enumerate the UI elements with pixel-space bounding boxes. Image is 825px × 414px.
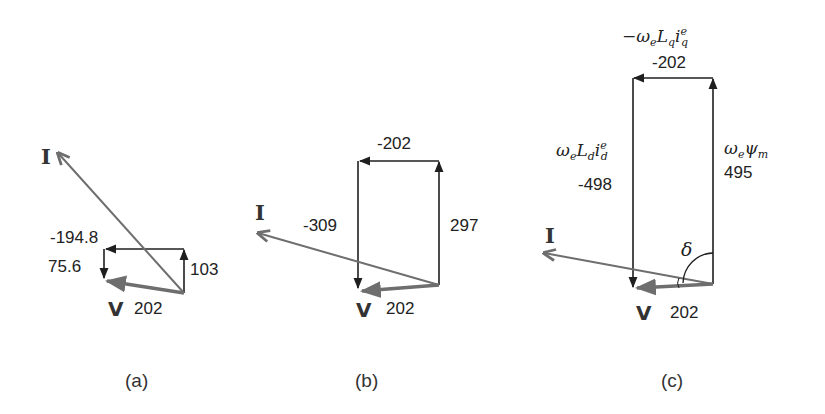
panel-c-vertical-up-value: 495 xyxy=(724,164,752,181)
panel-b-vertical-down-value: -309 xyxy=(303,217,337,234)
panel-c-delta-label: δ xyxy=(681,240,692,259)
panel-c-voltage-vector xyxy=(637,284,713,288)
panel-b-voltage-label: V xyxy=(356,300,371,320)
panel-c-vertical-down-value: -498 xyxy=(578,176,612,193)
panel-a-voltage-label: V xyxy=(108,299,123,319)
panel-c-caption: (c) xyxy=(661,371,683,390)
panel-b-voltage-value: 202 xyxy=(386,300,414,317)
panel-c-small-angle-arc xyxy=(678,278,679,288)
panel-b-voltage-vector xyxy=(362,285,439,291)
panel-c-vertical-down-symbol: ωeLdied xyxy=(556,140,608,162)
panel-b-current-vector xyxy=(258,233,439,285)
panel-b-current-label: I xyxy=(255,202,265,223)
panel-a-vertical-down-value: 75.6 xyxy=(48,258,81,275)
panel-c-horizontal-symbol: −ωeLqieq xyxy=(622,26,688,48)
panel-c-horizontal-value: -202 xyxy=(652,54,686,71)
panel-c-current-label: I xyxy=(545,225,555,246)
panel-a-voltage-value: 202 xyxy=(134,300,162,317)
panel-a-vertical-up-value: 103 xyxy=(190,261,218,278)
panel-c-vertical-up-symbol: ωeψm xyxy=(724,140,768,160)
panel-b-horizontal-value: -202 xyxy=(377,135,411,152)
panel-b xyxy=(258,161,439,291)
panel-b-vertical-up-value: 297 xyxy=(450,217,478,234)
panel-a-voltage-vector xyxy=(107,281,184,293)
panel-b-caption: (b) xyxy=(355,371,378,390)
panel-a-current-label: I xyxy=(41,146,51,167)
panel-c-voltage-label: V xyxy=(636,303,651,323)
phasor-diagrams xyxy=(0,0,825,414)
panel-a-caption: (a) xyxy=(125,371,148,390)
panel-c-voltage-value: 202 xyxy=(670,304,698,321)
panel-a-horizontal-value: -194.8 xyxy=(50,229,98,246)
